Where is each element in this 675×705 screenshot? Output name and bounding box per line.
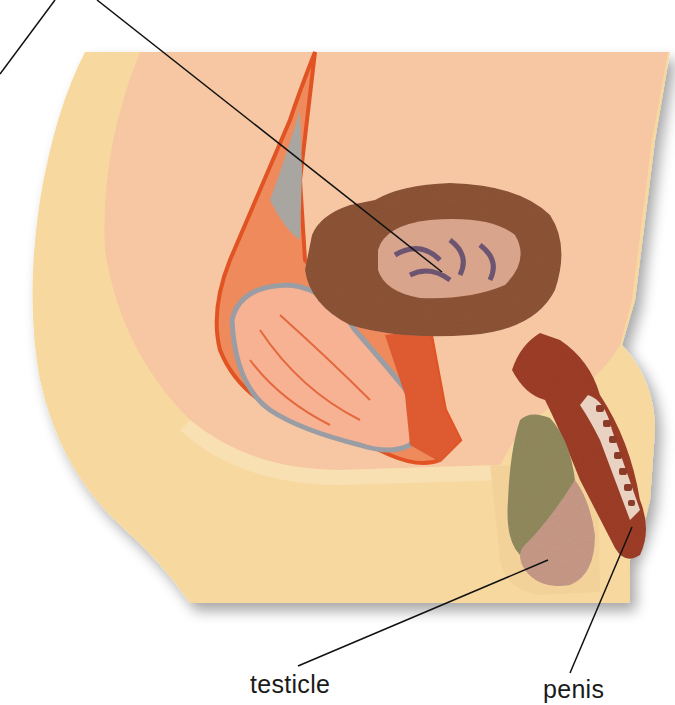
anatomical-model-figure bbox=[0, 0, 675, 705]
testicle-label: testicle bbox=[250, 670, 330, 699]
bladder-interior bbox=[378, 219, 521, 298]
bladder-pointer-line bbox=[0, 0, 55, 74]
penis-label: penis bbox=[543, 675, 604, 704]
